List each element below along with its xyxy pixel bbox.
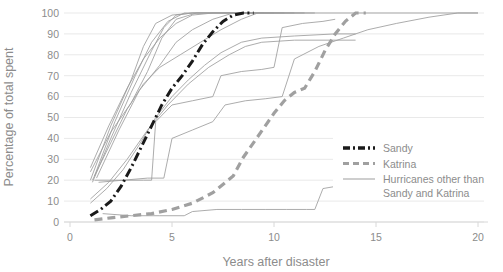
y-tick-label-90: 90 bbox=[47, 28, 59, 40]
y-tick-label-30: 30 bbox=[47, 153, 59, 165]
x-tick-label-15: 15 bbox=[370, 231, 382, 243]
chart-container: 0102030405060708090100 05101520 Years af… bbox=[0, 0, 503, 272]
y-tick-label-40: 40 bbox=[47, 132, 59, 144]
y-tick-label-70: 70 bbox=[47, 70, 59, 82]
y-tick-labels-group: 0102030405060708090100 bbox=[41, 7, 59, 228]
y-tick-label-0: 0 bbox=[53, 216, 59, 228]
y-tick-label-10: 10 bbox=[47, 195, 59, 207]
legend-label-2: Hurricanes other than bbox=[383, 173, 484, 185]
x-tick-label-0: 0 bbox=[67, 231, 73, 243]
series-line-other-8 bbox=[90, 34, 355, 203]
series-line-sandy bbox=[90, 13, 253, 216]
legend-label-1: Katrina bbox=[383, 158, 416, 170]
series-line-other-4 bbox=[94, 13, 284, 176]
x-axis-title: Years after disaster bbox=[222, 255, 329, 269]
y-tick-label-80: 80 bbox=[47, 49, 59, 61]
legend-label-2-line2: Sandy and Katrina bbox=[383, 187, 470, 199]
line-chart: 0102030405060708090100 05101520 Years af… bbox=[0, 0, 503, 272]
legend-label-0: Sandy bbox=[383, 142, 414, 154]
y-tick-label-100: 100 bbox=[41, 7, 59, 19]
y-tick-label-50: 50 bbox=[47, 111, 59, 123]
series-line-other-10 bbox=[94, 19, 335, 180]
y-tick-label-60: 60 bbox=[47, 90, 59, 102]
x-tick-label-20: 20 bbox=[472, 231, 484, 243]
chart-legend: SandyKatrinaHurricanes other thanSandy a… bbox=[333, 136, 503, 199]
series-sandy bbox=[90, 13, 253, 216]
series-line-other-5 bbox=[90, 13, 263, 172]
x-tick-labels-group: 05101520 bbox=[67, 231, 484, 243]
y-axis-title: Percentage of total spent bbox=[2, 47, 16, 187]
x-tick-label-10: 10 bbox=[268, 231, 280, 243]
x-tick-label-5: 5 bbox=[169, 231, 175, 243]
y-tick-label-20: 20 bbox=[47, 174, 59, 186]
series-line-other-6 bbox=[97, 13, 305, 178]
series-line-other-9 bbox=[90, 40, 355, 199]
